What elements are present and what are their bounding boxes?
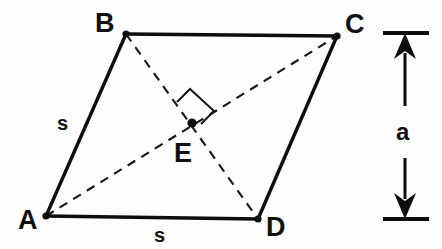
- side-label-AD: s: [154, 224, 165, 246]
- vertex-label-E: E: [174, 138, 192, 168]
- vertex-dot-C: [333, 32, 340, 39]
- edge-CD: [258, 36, 337, 219]
- vertex-label-A: A: [18, 205, 38, 235]
- vertex-dot-E: [187, 118, 196, 127]
- vertex-dot-B: [122, 30, 129, 37]
- height-dimension-group: a: [383, 33, 429, 219]
- geometry-canvas: A B C D E s s a: [0, 0, 442, 249]
- edge-BC: [126, 34, 337, 36]
- vertex-label-C: C: [345, 9, 365, 39]
- vertex-label-D: D: [266, 212, 286, 242]
- vertex-dot-D: [254, 215, 261, 222]
- edge-DA: [46, 216, 258, 219]
- vertex-dot-A: [42, 212, 49, 219]
- vertex-label-B: B: [95, 8, 115, 38]
- right-angle-icon: [177, 89, 214, 124]
- rhombus-figure: A B C D E s s a: [0, 0, 442, 249]
- side-labels-group: s s: [57, 112, 165, 246]
- side-label-AB: s: [57, 112, 68, 134]
- dimension-label-a: a: [396, 118, 410, 145]
